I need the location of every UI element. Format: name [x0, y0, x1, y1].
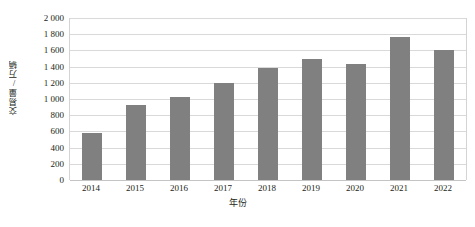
- bar[interactable]: [434, 50, 454, 180]
- bar-slot: [422, 18, 466, 180]
- bar-slot: [246, 18, 290, 180]
- y-axis-tick-label: 1 000: [24, 95, 64, 104]
- bar-slot: [334, 18, 378, 180]
- x-axis-title: 年份: [0, 198, 475, 209]
- x-axis-tick-label: 2021: [390, 183, 408, 194]
- bar[interactable]: [258, 68, 278, 180]
- bar-chart: 交易量/万辆 2 0001 8001 6001 4001 2001 000800…: [0, 0, 475, 227]
- bar[interactable]: [126, 105, 146, 180]
- y-axis-tick-label: 2 000: [24, 14, 64, 23]
- bar-slot: [114, 18, 158, 180]
- y-axis-tick-label: 0: [24, 176, 64, 185]
- x-axis-tick-label: 2022: [434, 183, 452, 194]
- y-axis-tick-labels: 2 0001 8001 6001 4001 2001 0008006004002…: [26, 12, 66, 186]
- y-axis-tick-label: 200: [24, 159, 64, 168]
- x-axis-tick-labels: 201420152016201720182019202020212022: [69, 183, 465, 197]
- x-axis-tick-label: 2020: [346, 183, 364, 194]
- y-axis-tick-label: 1 800: [24, 30, 64, 39]
- bar-slot: [70, 18, 114, 180]
- x-axis-tick-label: 2019: [302, 183, 320, 194]
- bar[interactable]: [302, 59, 322, 180]
- y-axis-tick-label: 800: [24, 111, 64, 120]
- y-axis-tick-label: 400: [24, 143, 64, 152]
- bar[interactable]: [170, 97, 190, 180]
- bar-slot: [378, 18, 422, 180]
- y-axis-tick-label: 1 400: [24, 62, 64, 71]
- bar[interactable]: [82, 133, 102, 180]
- x-axis-tick-label: 2016: [170, 183, 188, 194]
- bar-slot: [202, 18, 246, 180]
- bars-group: [70, 18, 466, 180]
- y-axis-tick-label: 600: [24, 127, 64, 136]
- x-axis-tick-label: 2018: [258, 183, 276, 194]
- bar-slot: [158, 18, 202, 180]
- x-axis-tick-label: 2014: [82, 183, 100, 194]
- bar[interactable]: [346, 64, 366, 180]
- gridline: [70, 180, 466, 181]
- bar[interactable]: [390, 37, 410, 180]
- x-axis-tick-label: 2015: [126, 183, 144, 194]
- plot-area: [69, 18, 467, 180]
- bar[interactable]: [214, 83, 234, 180]
- y-axis-tick-label: 1 200: [24, 78, 64, 87]
- bar-slot: [290, 18, 334, 180]
- x-axis-tick-label: 2017: [214, 183, 232, 194]
- y-axis-tick-label: 1 600: [24, 46, 64, 55]
